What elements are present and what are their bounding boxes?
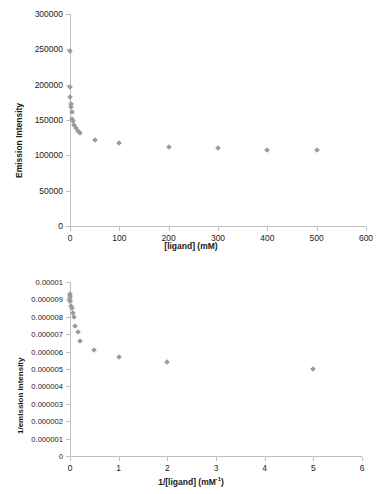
data-point [116,354,122,360]
plot-area: 0500001000001500002000002500003000000100… [70,14,366,226]
y-axis-tick-label: 0 [59,452,63,461]
data-point [310,366,316,372]
data-point [67,48,73,54]
y-axis-tick-label: 250000 [35,44,63,54]
y-axis-title: Emission Intensity [14,103,24,178]
y-axis-tick [66,352,70,353]
y-axis-tick-label: 0.000007 [31,330,63,339]
data-point [116,140,122,146]
x-axis-tick-label: 2 [165,463,170,473]
x-axis-tick-label: 4 [262,463,267,473]
y-axis-tick [66,386,70,387]
data-point [73,323,79,329]
data-point [215,145,221,151]
y-axis-tick-label: 0.00001 [36,278,63,287]
y-axis-tick-label: 300000 [35,9,63,19]
data-point [75,330,81,336]
chart-emission-vs-ligand: Emission Intensity 050000100000150000200… [0,0,382,258]
x-axis-tick [218,227,219,231]
y-axis-title: 1/emission intensity [16,358,25,434]
data-point [92,137,98,143]
data-point [67,85,73,91]
data-point [314,148,320,154]
y-axis-tick-label: 150000 [35,115,63,125]
data-point [68,95,74,101]
x-axis-tick [362,457,363,461]
x-axis-tick [167,457,168,461]
y-axis-tick [66,14,70,15]
figure-page: Emission Intensity 050000100000150000200… [0,0,382,494]
chart-lineweaver-burk: 1/emission intensity 00.0000010.0000020.… [0,258,382,494]
y-axis-tick [66,155,70,156]
data-point [77,338,83,344]
x-axis-title-base: 1/[ligand] (mM [158,477,216,487]
y-axis-tick [66,191,70,192]
y-axis-tick-label: 0.000001 [31,434,63,443]
x-axis-title: 1/[ligand] (mM-1) [0,476,382,487]
x-axis-tick [267,227,268,231]
cropped-title-text [44,0,344,6]
y-axis-tick-label: 0.000003 [31,399,63,408]
x-axis-title: [ligand] (mM) [0,241,382,251]
x-axis-tick [70,227,71,231]
x-axis-tick [216,457,217,461]
x-axis-tick [119,457,120,461]
y-axis-tick [66,334,70,335]
y-axis-tick [66,439,70,440]
x-axis-tick-label: 5 [311,463,316,473]
y-axis-tick-label: 0.000008 [31,312,63,321]
y-axis-tick-label: 0.000009 [31,295,63,304]
y-axis-tick-label: 50000 [39,186,63,196]
x-axis-tick [70,457,71,461]
x-axis-tick [169,227,170,231]
data-point [264,147,270,153]
data-point [91,347,97,353]
y-axis-tick-label: 0.000006 [31,347,63,356]
x-axis-tick [366,227,367,231]
x-axis-tick-label: 3 [214,463,219,473]
y-axis-tick-label: 0.000002 [31,417,63,426]
y-axis-tick [66,369,70,370]
plot-area: 00.0000010.0000020.0000030.0000040.00000… [70,282,362,456]
data-point [166,144,172,150]
y-axis-tick-label: 100000 [35,150,63,160]
y-axis-tick [66,404,70,405]
x-axis-tick [313,457,314,461]
y-axis-tick [66,317,70,318]
data-point [71,314,77,320]
data-point [77,131,83,137]
x-axis-tick [317,227,318,231]
y-axis-tick [66,421,70,422]
x-axis-tick-label: 6 [360,463,365,473]
y-axis-tick [66,282,70,283]
x-axis-tick-label: 0 [68,463,73,473]
y-axis-tick-label: 0.000004 [31,382,63,391]
x-axis-tick [265,457,266,461]
x-axis-tick [119,227,120,231]
y-axis-tick-label: 0.000005 [31,365,63,374]
x-axis-tick-label: 1 [116,463,121,473]
y-axis-tick-label: 0 [58,221,63,231]
y-axis-tick-label: 200000 [35,80,63,90]
x-axis-title-tail: ) [221,477,224,487]
data-point [164,359,170,365]
